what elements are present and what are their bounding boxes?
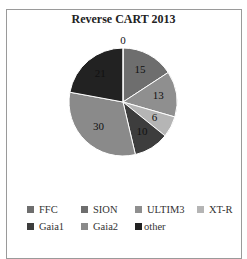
pie-data-label: 10	[136, 125, 148, 137]
legend-swatch	[135, 223, 142, 230]
legend-label: XT-R	[209, 204, 233, 215]
legend-swatch	[135, 206, 142, 213]
legend-row-2: Gaia1 Gaia2 other	[27, 218, 237, 235]
legend-row-1: FFC SION ULTIM3 XT-R	[27, 201, 237, 218]
pie-data-label: 0	[120, 34, 126, 46]
legend-swatch	[81, 223, 88, 230]
legend-item-gaia1: Gaia1	[27, 221, 81, 232]
chart-legend: FFC SION ULTIM3 XT-R Gaia1 Gaia2 other	[27, 201, 237, 235]
legend-label: SION	[93, 204, 118, 215]
pie-data-label: 6	[152, 111, 158, 123]
legend-swatch	[27, 206, 34, 213]
legend-item-ultim3: ULTIM3	[135, 204, 197, 215]
legend-item-other: other	[135, 221, 166, 232]
legend-label: FFC	[39, 204, 58, 215]
legend-label: Gaia1	[39, 221, 64, 232]
legend-swatch	[27, 223, 34, 230]
pie-data-label: 15	[134, 63, 146, 75]
legend-item-sion: SION	[81, 204, 135, 215]
legend-label: ULTIM3	[147, 204, 185, 215]
pie-data-label: 13	[153, 89, 165, 101]
legend-swatch	[81, 206, 88, 213]
legend-label: Gaia2	[93, 221, 118, 232]
pie-data-label: 21	[95, 67, 106, 79]
legend-label: other	[144, 221, 166, 232]
legend-swatch	[197, 206, 204, 213]
pie-data-label: 30	[93, 120, 105, 132]
legend-item-xt-r: XT-R	[197, 204, 233, 215]
legend-item-gaia2: Gaia2	[81, 221, 135, 232]
legend-item-ffc: FFC	[27, 204, 81, 215]
